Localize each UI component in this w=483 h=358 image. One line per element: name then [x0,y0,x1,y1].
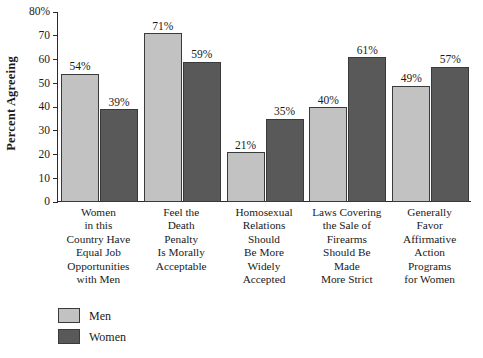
x-axis-category-label: Feel theDeathPenaltyIs MorallyAcceptable [138,206,224,273]
x-axis-category-label: GenerallyFavorAffirmativeActionProgramsf… [387,206,473,286]
bar-value-label: 71% [152,21,173,33]
y-axis-tick-label: 10 [39,173,54,185]
y-axis-tick-label: 0 [44,196,53,208]
y-axis-tick-label: 70 [39,30,54,42]
bar-men[interactable]: 21% [227,152,265,202]
bar-group: 71%59% [140,12,223,202]
x-axis-category-label: HomosexualRelationsShouldBe MoreWidelyAc… [221,206,307,286]
bar-group: 54%39% [57,12,140,202]
bar-value-label: 54% [69,61,90,73]
y-axis-tick-label: 60 [39,54,54,66]
bar-men[interactable]: 40% [309,107,347,202]
y-axis-tick-label: 80% [29,6,53,18]
bar-women[interactable]: 35% [266,119,304,202]
bar-value-label: 57% [440,54,461,66]
y-axis-tick-label: 50 [39,78,54,90]
bar-women[interactable]: 61% [348,57,386,202]
legend-swatch-women-icon [58,329,80,344]
bar-value-label: 21% [235,140,256,152]
x-axis-category-label: Womenin thisCountry HaveEqual JobOpportu… [55,206,141,286]
y-axis-tick-label: 20 [39,149,54,161]
legend-label-women: Women [89,331,126,343]
bar-value-label: 40% [318,95,339,107]
bar-value-label: 59% [191,49,212,61]
bar-women[interactable]: 59% [183,62,221,202]
y-axis-title-text: Percent Agreeing [4,56,19,151]
legend-label-men: Men [89,310,111,322]
bar-value-label: 35% [274,106,295,118]
y-axis-title: Percent Agreeing [0,0,22,206]
bar-group: 21%35% [223,12,306,202]
legend-item-women: Women [58,327,126,346]
bar-chart: Percent Agreeing 80%706050403020100 54%3… [0,0,483,358]
y-axis-tick-label: 40 [39,101,54,113]
legend-item-men: Men [58,306,126,325]
bar-women[interactable]: 57% [431,67,469,202]
y-axis-tick-label: 30 [39,125,54,137]
bar-men[interactable]: 49% [392,86,430,202]
legend-swatch-men-icon [58,308,80,323]
bar-group: 49%57% [388,12,471,202]
bar-group: 40%61% [305,12,388,202]
bar-value-label: 39% [108,97,129,109]
bar-value-label: 61% [357,45,378,57]
bar-men[interactable]: 71% [144,33,182,202]
bar-men[interactable]: 54% [61,74,99,202]
x-axis-category-labels: Womenin thisCountry HaveEqual JobOpportu… [57,206,471,302]
legend: Men Women [58,306,126,348]
bars-layer: 54%39%71%59%21%35%40%61%49%57% [57,12,471,202]
x-axis-category-label: Laws Coveringthe Sale ofFirearmsShould B… [304,206,390,286]
bar-value-label: 49% [401,73,422,85]
bar-women[interactable]: 39% [100,109,138,202]
